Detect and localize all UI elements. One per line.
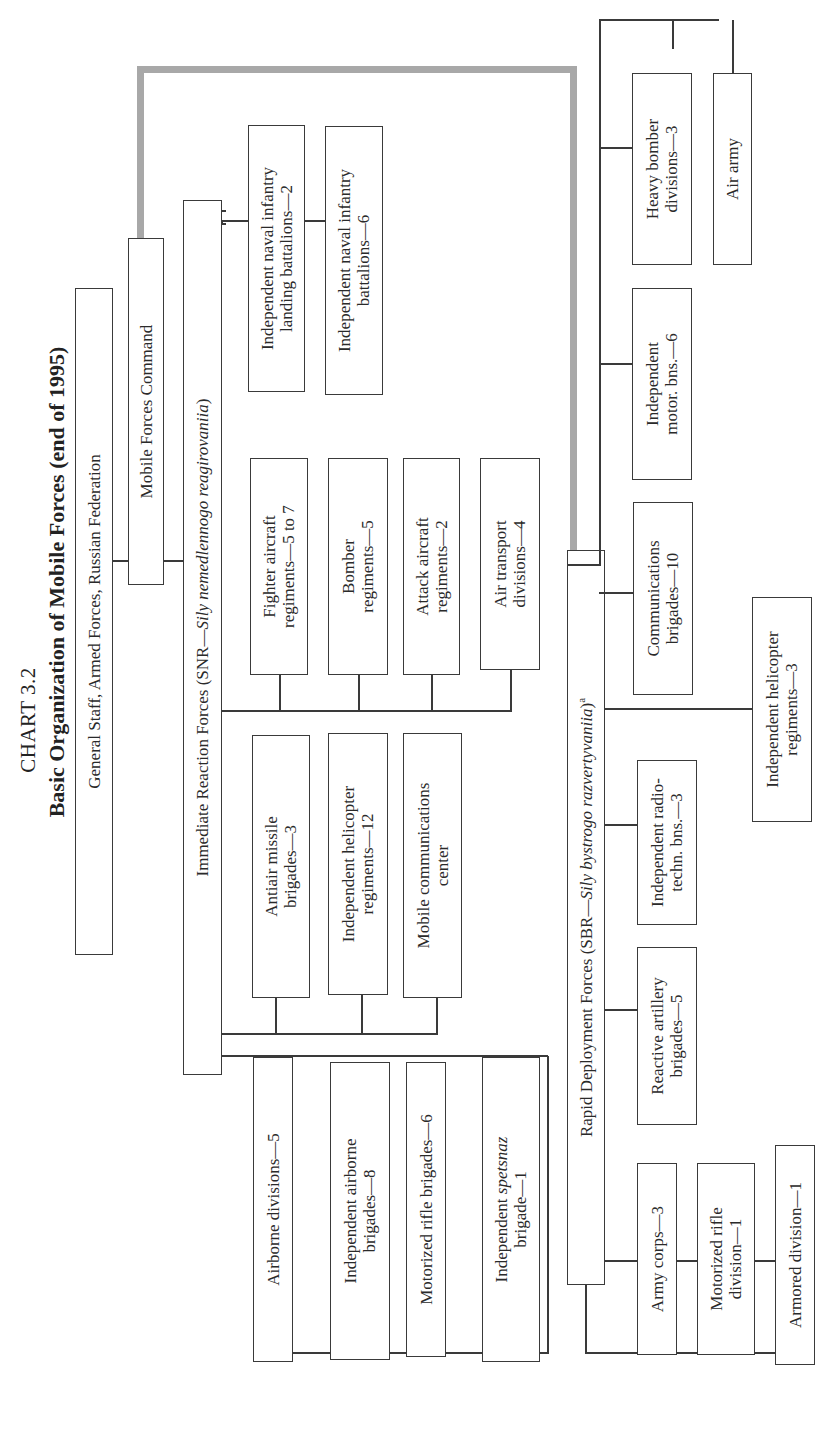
chart-label: CHART 3.2 (16, 570, 41, 870)
unit-label: landing battalions—2 (277, 185, 296, 332)
unit-label: Air army (723, 138, 742, 200)
connector (540, 1353, 548, 1355)
connector (431, 675, 433, 712)
sbr-heavy-bomber-unit: Heavy bomber divisions—3 (632, 73, 692, 265)
connector (605, 709, 752, 711)
unit-label: Reactive artillery (648, 977, 667, 1095)
unit-label: Attack aircraft (413, 517, 432, 616)
connector (599, 148, 632, 150)
unit-label: brigades—5 (667, 994, 686, 1077)
snr-support-unit: Mobile communications center (403, 733, 462, 998)
unit-label: regiments—12 (358, 813, 377, 914)
sbr-artillery-unit: Reactive artillery brigades—5 (637, 947, 697, 1125)
sbr-radio-unit: Independent radio- techn. bns.—3 (637, 760, 697, 925)
unit-label: regiments—3 (782, 663, 801, 756)
unit-label: divisions—4 (510, 521, 529, 608)
sbr-ground-unit: Motorized rifle division—1 (697, 1163, 755, 1355)
unit-label: Armored division—1 (786, 1182, 805, 1328)
connector (732, 20, 734, 73)
sbr-label: Rapid Deployment Forces (SBR—Sily bystro… (577, 698, 596, 1137)
unit-label: Independent (643, 342, 662, 426)
connector (113, 561, 128, 563)
unit-label: division—1 (726, 1219, 745, 1299)
unit-label: brigade—1 (511, 1171, 530, 1247)
connector (275, 998, 277, 1035)
connector (222, 711, 511, 713)
connector (279, 675, 281, 712)
mobile-forces-command-box: Mobile Forces Command (128, 238, 164, 585)
unit-label: regiments—2 (432, 520, 451, 613)
unit-label: divisions—3 (662, 126, 681, 213)
connector (672, 20, 674, 49)
org-chart: CHART 3.2 Basic Organization of Mobile F… (0, 0, 825, 1432)
snr-ground-unit: Independent airborne brigades—8 (330, 1062, 390, 1360)
sbr-communications-unit: Communications brigades—10 (633, 502, 693, 695)
unit-label: Airborne divisions—5 (264, 1133, 283, 1286)
unit-label: techn. bns.—3 (667, 793, 686, 892)
sbr-air-army-unit: Air army (713, 73, 752, 265)
unit-label: Independent naval infantry (335, 169, 354, 352)
unit-label: brigades—10 (663, 553, 682, 645)
sbr-ground-unit: Armored division—1 (775, 1145, 815, 1365)
connector (361, 995, 363, 1035)
unit-label: Independent naval infantry (258, 167, 277, 350)
unit-label: Army corps—3 (648, 1206, 667, 1312)
unit-label: Heavy bomber (643, 119, 662, 220)
connector (585, 1353, 796, 1355)
unit-label: Motorized rifle brigades—6 (417, 1114, 436, 1305)
snr-air-unit: Attack aircraft regiments—2 (403, 458, 460, 675)
snr-support-unit: Antiair missile brigades—3 (252, 735, 310, 998)
snr-box: Immediate Reaction Forces (SNR—Sily neme… (183, 200, 222, 1075)
footnote-mark: a (575, 698, 587, 703)
unit-label: Independent airborne (341, 1139, 360, 1284)
connector (605, 1010, 637, 1012)
unit-label: regiments—5 (358, 520, 377, 613)
unit-label: battalions—6 (354, 215, 373, 307)
unit-label: Antiair missile (262, 816, 281, 917)
snr-naval-unit: Independent naval infantry landing batta… (248, 125, 305, 392)
sbr-motor-unit: Independent motor. bns.—6 (632, 288, 692, 480)
connector (567, 565, 600, 567)
command-link-line (137, 66, 577, 73)
connector (222, 211, 226, 213)
connector (599, 364, 632, 366)
snr-ground-unit: Independent spetsnaz brigade—1 (482, 1057, 540, 1362)
command-link-line (570, 66, 577, 589)
connector (599, 20, 719, 22)
unit-label: regiments—5 to 7 (279, 505, 298, 628)
snr-ground-unit: Airborne divisions—5 (253, 1057, 293, 1362)
unit-label: Independent helicopter (339, 786, 358, 942)
unit-label: Motorized rifle (707, 1207, 726, 1310)
snr-support-unit: Independent helicopter regiments—12 (328, 733, 388, 995)
unit-label: Fighter aircraft (260, 515, 279, 617)
mobile-forces-command-label: Mobile Forces Command (137, 325, 156, 499)
sbr-helicopter-unit: Independent helicopter regiments—3 (752, 597, 812, 822)
naval-bus (222, 223, 224, 224)
unit-label: motor. bns.—6 (662, 333, 681, 435)
snr-naval-unit: Independent naval infantry battalions—6 (325, 126, 383, 395)
chart-title: Basic Organization of Mobile Forces (end… (44, 132, 70, 1032)
connector (358, 675, 360, 712)
general-staff-box: General Staff, Armed Forces, Russian Fed… (75, 288, 113, 955)
connector (436, 998, 438, 1035)
unit-label: Communications (644, 540, 663, 656)
connector (510, 670, 512, 712)
snr-air-unit: Fighter aircraft regiments—5 to 7 (250, 458, 308, 675)
connector (599, 20, 601, 566)
general-staff-label: General Staff, Armed Forces, Russian Fed… (85, 454, 104, 788)
connector (164, 561, 183, 563)
unit-label: brigades—3 (281, 825, 300, 908)
snr-air-unit: Air transport divisions—4 (480, 458, 540, 670)
sbr-box: Rapid Deployment Forces (SBR—Sily bystro… (567, 550, 605, 1285)
unit-label: Air transport (491, 520, 510, 607)
unit-label: Independent spetsnaz (492, 1137, 511, 1283)
unit-label: Independent radio- (648, 778, 667, 907)
unit-label: center (433, 845, 452, 887)
sbr-ground-unit: Army corps—3 (637, 1163, 677, 1355)
connector (547, 1056, 549, 1354)
unit-label: Bomber (339, 539, 358, 594)
connector (222, 1034, 437, 1036)
connector (585, 1285, 587, 1354)
snr-air-unit: Bomber regiments—5 (328, 458, 388, 675)
unit-label: Independent helicopter (763, 631, 782, 787)
